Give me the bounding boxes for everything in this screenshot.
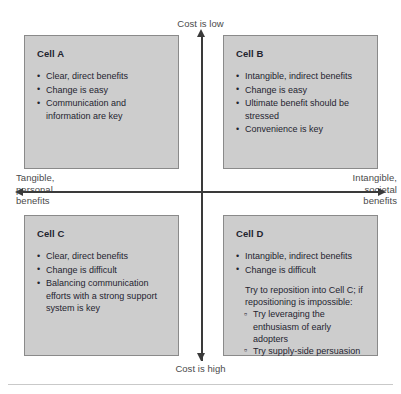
cell-d-note-block: Try to reposition into Cell C; if reposi… <box>236 284 366 357</box>
list-item: Change is difficult <box>37 264 167 276</box>
quadrant-cell-c: Cell C Clear, direct benefits Change is … <box>24 215 179 356</box>
list-item: Change is easy <box>37 84 167 96</box>
diagram-canvas: Cost is low Cost is high Tangible, perso… <box>0 0 401 394</box>
arrow-down-icon <box>197 353 205 361</box>
axis-label-left: Tangible, personal benefits <box>16 172 86 207</box>
cell-d-bullet-list: Intangible, indirect benefits Change is … <box>236 250 366 276</box>
list-item: Balancing communication efforts with a s… <box>37 277 167 314</box>
arrow-up-icon <box>197 29 205 37</box>
cell-b-title: Cell B <box>236 48 366 59</box>
quadrant-cell-a: Cell A Clear, direct benefits Change is … <box>24 35 179 169</box>
list-item: Communication and information are key <box>37 97 167 121</box>
cell-d-title: Cell D <box>236 228 366 239</box>
vertical-axis-line <box>201 36 203 361</box>
list-item: Ultimate benefit should be stressed <box>236 97 366 121</box>
list-item: Clear, direct benefits <box>37 250 167 262</box>
quadrant-cell-d: Cell D Intangible, indirect benefits Cha… <box>223 215 378 356</box>
list-item: Change is easy <box>236 84 366 96</box>
list-item: Convenience is key <box>236 123 366 135</box>
list-item: Try leveraging the enthusiasm of early a… <box>245 308 366 345</box>
cell-a-title: Cell A <box>37 48 167 59</box>
list-item: Intangible, indirect benefits <box>236 70 366 82</box>
horizontal-axis-line <box>22 191 380 193</box>
list-item: Change is difficult <box>236 264 366 276</box>
quadrant-cell-b: Cell B Intangible, indirect benefits Cha… <box>223 35 378 169</box>
list-item: Try supply-side persuasion <box>245 345 366 357</box>
cell-c-title: Cell C <box>37 228 167 239</box>
arrow-right-icon <box>378 188 386 196</box>
arrow-left-icon <box>15 188 23 196</box>
cell-b-bullet-list: Intangible, indirect benefits Change is … <box>236 70 366 136</box>
axis-label-top: Cost is low <box>0 18 401 30</box>
cell-d-note: Try to reposition into Cell C; if reposi… <box>245 284 366 308</box>
cell-a-bullet-list: Clear, direct benefits Change is easy Co… <box>37 70 167 122</box>
bottom-divider <box>8 384 393 385</box>
axis-label-bottom: Cost is high <box>0 363 401 375</box>
cell-c-bullet-list: Clear, direct benefits Change is difficu… <box>37 250 167 314</box>
list-item: Intangible, indirect benefits <box>236 250 366 262</box>
cell-d-sub-bullet-list: Try leveraging the enthusiasm of early a… <box>245 308 366 357</box>
list-item: Clear, direct benefits <box>37 70 167 82</box>
